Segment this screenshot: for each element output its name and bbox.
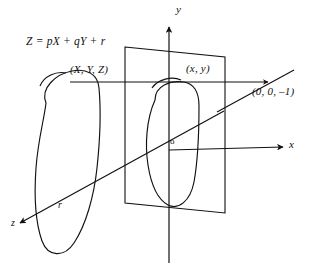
offset-r-label: r bbox=[58, 200, 62, 210]
axis-x-line bbox=[169, 147, 283, 150]
projection-center-label: (0, 0, –1) bbox=[252, 86, 294, 97]
world-point-label: (X, Y, Z) bbox=[70, 64, 108, 75]
world-region-blob bbox=[35, 70, 100, 253]
projective-geometry-figure: Z = pX + qY + r (X, Y, Z) (x, y) (0, 0, … bbox=[0, 0, 312, 276]
axis-x-label: x bbox=[289, 139, 294, 150]
origin-label: o bbox=[170, 137, 175, 146]
axis-y-label: y bbox=[176, 4, 181, 15]
image-point-label: (x, y) bbox=[186, 63, 210, 74]
axis-z-label: z bbox=[11, 218, 15, 228]
image-plane-quad bbox=[125, 47, 225, 213]
image-blob-notch bbox=[152, 78, 181, 88]
axis-z-line bbox=[20, 111, 224, 223]
plane-equation-label: Z = pX + qY + r bbox=[26, 36, 105, 48]
